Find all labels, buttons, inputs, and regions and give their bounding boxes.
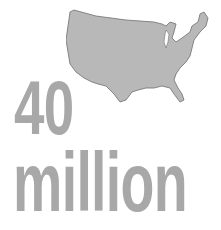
headline-unit: million [13,140,187,224]
us-map-icon [66,8,210,104]
